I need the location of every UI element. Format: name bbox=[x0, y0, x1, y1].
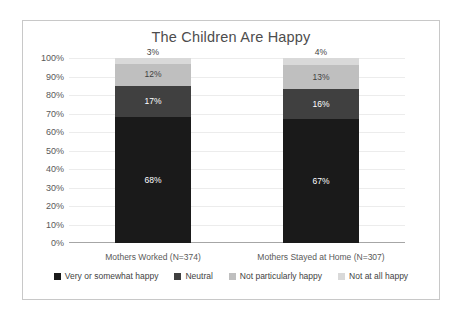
y-axis-tick-label: 10% bbox=[46, 220, 64, 230]
legend-item[interactable]: Not particularly happy bbox=[229, 271, 322, 281]
chart-container: The Children Are Happy 100%90%80%70%60%5… bbox=[22, 20, 440, 300]
stacked-bar[interactable]: 68%17%12%3%Mothers Worked (N=374) bbox=[115, 58, 191, 243]
legend-item[interactable]: Neutral bbox=[174, 271, 212, 281]
y-axis-tick-label: 80% bbox=[46, 90, 64, 100]
bar-segment[interactable]: 12% bbox=[115, 64, 191, 86]
y-axis-tick-label: 70% bbox=[46, 109, 64, 119]
legend-label: Not at all happy bbox=[349, 271, 408, 281]
y-axis-tick-label: 30% bbox=[46, 183, 64, 193]
legend-label: Not particularly happy bbox=[240, 271, 322, 281]
y-axis-tick-label: 60% bbox=[46, 127, 64, 137]
bar-segment[interactable]: 17% bbox=[115, 86, 191, 117]
chart-legend: Very or somewhat happyNeutralNot particu… bbox=[23, 271, 439, 281]
y-axis-tick-label: 100% bbox=[41, 53, 64, 63]
bar-segment-value-label: 4% bbox=[315, 48, 327, 57]
category-axis-label: Mothers Worked (N=374) bbox=[105, 252, 201, 262]
bar-segment-value-label: 67% bbox=[312, 177, 329, 186]
stacked-bar[interactable]: 67%16%13%4%Mothers Stayed at Home (N=307… bbox=[283, 58, 359, 243]
legend-swatch-icon bbox=[338, 273, 345, 280]
legend-label: Very or somewhat happy bbox=[65, 271, 159, 281]
y-axis-tick-label: 0% bbox=[51, 238, 64, 248]
legend-swatch-icon bbox=[54, 273, 61, 280]
y-axis-tick-label: 20% bbox=[46, 201, 64, 211]
bar-segment[interactable]: 13% bbox=[283, 65, 359, 89]
bar-segment-value-label: 16% bbox=[312, 100, 329, 109]
bar-segment-value-label: 17% bbox=[144, 97, 161, 106]
legend-swatch-icon bbox=[174, 273, 181, 280]
bar-segment[interactable]: 67% bbox=[283, 119, 359, 243]
legend-label: Neutral bbox=[185, 271, 212, 281]
bar-segment[interactable]: 4% bbox=[283, 58, 359, 65]
category-axis-label: Mothers Stayed at Home (N=307) bbox=[257, 252, 384, 262]
y-axis-tick-label: 40% bbox=[46, 164, 64, 174]
chart-title: The Children Are Happy bbox=[23, 29, 439, 45]
legend-swatch-icon bbox=[229, 273, 236, 280]
bar-segment-value-label: 68% bbox=[144, 176, 161, 185]
plot-area: 100%90%80%70%60%50%40%30%20%10%0% 68%17%… bbox=[69, 58, 405, 243]
legend-item[interactable]: Not at all happy bbox=[338, 271, 408, 281]
y-axis-tick-label: 50% bbox=[46, 146, 64, 156]
bar-segment[interactable]: 16% bbox=[283, 89, 359, 119]
legend-item[interactable]: Very or somewhat happy bbox=[54, 271, 159, 281]
y-axis-tick-label: 90% bbox=[46, 72, 64, 82]
bar-segment-value-label: 12% bbox=[144, 70, 161, 79]
bar-segment[interactable]: 68% bbox=[115, 117, 191, 243]
bar-segment[interactable]: 3% bbox=[115, 58, 191, 64]
bar-segment-value-label: 13% bbox=[312, 73, 329, 82]
bar-segment-value-label: 3% bbox=[147, 48, 159, 57]
